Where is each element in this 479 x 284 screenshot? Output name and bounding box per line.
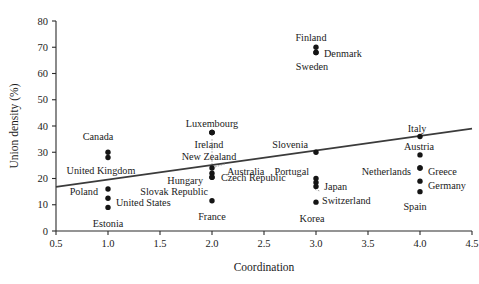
data-point	[417, 134, 422, 139]
data-point	[105, 195, 110, 200]
data-point-label: Italy	[408, 123, 428, 134]
data-point	[313, 150, 318, 155]
data-point-label: Switzerland	[322, 195, 371, 206]
y-tick-label: 20	[38, 173, 49, 184]
data-point-label: Hungary	[167, 175, 204, 186]
scatter-plot-figure: 010203040506070800.51.01.52.02.53.03.54.…	[0, 0, 479, 284]
data-point	[417, 165, 422, 170]
data-point	[313, 184, 318, 189]
label-leader-line	[315, 189, 320, 191]
data-point	[313, 50, 318, 55]
x-tick-label: 2.0	[205, 238, 218, 249]
x-tick-label: 3.5	[361, 238, 374, 249]
data-point	[417, 152, 422, 157]
x-tick-label: 1.0	[101, 238, 114, 249]
y-tick-label: 60	[38, 68, 49, 79]
x-tick-label: 0.5	[49, 238, 62, 249]
data-point	[313, 199, 318, 204]
y-tick-label: 50	[38, 94, 49, 105]
data-point	[105, 155, 110, 160]
y-tick-label: 40	[38, 121, 49, 132]
y-tick-label: 0	[43, 226, 48, 237]
data-point-label: Portugal	[274, 166, 309, 177]
y-tick-label: 80	[38, 16, 49, 27]
data-point	[313, 45, 318, 50]
data-point	[209, 198, 214, 203]
data-point-label: Finland	[295, 32, 326, 43]
data-point-label: Denmark	[324, 48, 363, 59]
data-point-label: Luxembourg	[186, 118, 238, 129]
data-point-label: Korea	[300, 213, 325, 224]
x-tick-label: 2.5	[257, 238, 270, 249]
data-point-label: Ireland	[195, 139, 224, 150]
plot-canvas: 010203040506070800.51.01.52.02.53.03.54.…	[0, 0, 479, 284]
data-point-label: Japan	[324, 181, 347, 192]
data-point-label: United Kingdom	[67, 165, 136, 176]
data-point-label: Greece	[428, 166, 457, 177]
data-point-label: Slovenia	[272, 139, 308, 150]
data-point-label: New Zealand	[182, 151, 237, 162]
y-tick-label: 70	[38, 42, 49, 53]
data-point	[209, 174, 214, 179]
data-point-label: Slovak Republic	[140, 186, 208, 197]
y-tick-label: 30	[38, 147, 49, 158]
data-point-label: Austria	[404, 141, 434, 152]
y-tick-label: 10	[38, 199, 49, 210]
data-point-label: Canada	[83, 131, 114, 142]
data-point	[209, 165, 214, 170]
data-point-label: Sweden	[296, 61, 328, 72]
data-point	[417, 178, 422, 183]
data-point-label: Netherlands	[362, 166, 411, 177]
x-axis-title: Coordination	[234, 261, 295, 273]
data-point	[209, 130, 214, 135]
data-point	[417, 189, 422, 194]
x-tick-label: 4.0	[413, 238, 426, 249]
data-point	[105, 186, 110, 191]
point-labels: CanadaUnited KingdomPolandUnited StatesE…	[67, 32, 467, 229]
data-point-label: United States	[116, 197, 171, 208]
x-tick-label: 1.5	[153, 238, 166, 249]
data-point-label: Poland	[70, 186, 98, 197]
y-axis-title: Union density (%)	[8, 83, 21, 168]
data-point-label: Estonia	[93, 218, 124, 229]
x-tick-label: 3.0	[309, 238, 322, 249]
data-point-label: France	[198, 211, 226, 222]
x-tick-label: 4.5	[465, 238, 478, 249]
data-point	[105, 205, 110, 210]
data-point-label: Spain	[403, 201, 426, 212]
data-point	[105, 150, 110, 155]
data-point-label: Germany	[428, 180, 467, 191]
